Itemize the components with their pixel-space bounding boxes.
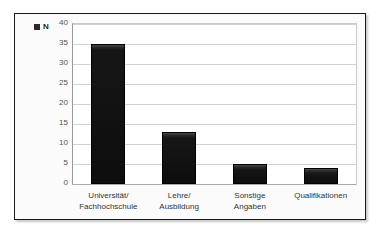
y-axis-tick-label: 10 <box>22 139 68 147</box>
bar-slot <box>215 24 286 184</box>
x-axis-category-label: Universität/Fachhochschule <box>73 190 144 212</box>
bars-group <box>73 24 356 184</box>
x-axis: Universität/FachhochschuleLehre/Ausbildu… <box>73 190 356 218</box>
y-axis-tick-label: 5 <box>22 159 68 167</box>
y-axis: 4035302520151050 <box>15 23 68 185</box>
bar-2[interactable] <box>162 132 196 184</box>
y-axis-tick-label: 40 <box>22 19 68 27</box>
y-axis-tick-label: 15 <box>22 119 68 127</box>
y-axis-tick-label: 0 <box>22 179 68 187</box>
bar-slot <box>285 24 356 184</box>
y-axis-tick-label: 30 <box>22 59 68 67</box>
bar-1[interactable] <box>91 44 125 184</box>
x-axis-label-line: Angaben <box>215 201 286 212</box>
y-axis-tick-label: 25 <box>22 79 68 87</box>
x-axis-category-label: SonstigeAngaben <box>215 190 286 212</box>
x-axis-label-line: Universität/ <box>73 190 144 201</box>
bar-3[interactable] <box>233 164 267 184</box>
x-axis-label-line: Ausbildung <box>144 201 215 212</box>
y-axis-tick-label: 20 <box>22 99 68 107</box>
bar-chart-figure: N 4035302520151050 Universität/Fachhochs… <box>14 13 366 220</box>
bar-4[interactable] <box>304 168 338 184</box>
x-axis-label-line: Fachhochschule <box>73 201 144 212</box>
x-axis-category-label: Lehre/Ausbildung <box>144 190 215 212</box>
x-axis-label-line: Sonstige <box>215 190 286 201</box>
x-axis-category-label: Qualifikationen <box>285 190 356 201</box>
y-axis-tick-label: 35 <box>22 39 68 47</box>
bar-slot <box>73 24 144 184</box>
bar-slot <box>144 24 215 184</box>
x-axis-label-line: Lehre/ <box>144 190 215 201</box>
gridline <box>73 184 356 185</box>
x-axis-label-line: Qualifikationen <box>285 190 356 201</box>
